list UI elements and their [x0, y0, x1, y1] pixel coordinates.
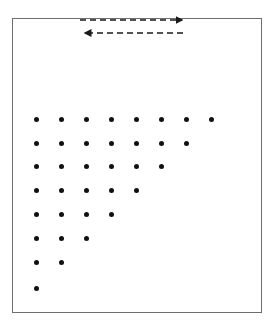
dot-marker — [84, 188, 89, 193]
dot-marker — [59, 260, 64, 265]
dot-marker — [134, 117, 139, 122]
dot-marker — [109, 164, 114, 169]
dot-marker — [84, 212, 89, 217]
dot-marker — [34, 141, 39, 146]
dot-marker — [84, 236, 89, 241]
dot-marker — [134, 164, 139, 169]
dot-marker — [159, 117, 164, 122]
dot-marker — [84, 141, 89, 146]
dot-marker — [59, 212, 64, 217]
dot-marker — [184, 141, 189, 146]
dot-marker — [109, 188, 114, 193]
dot-marker — [84, 117, 89, 122]
dot-marker — [34, 260, 39, 265]
dot-marker — [134, 188, 139, 193]
dot-marker — [34, 188, 39, 193]
dot-marker — [34, 117, 39, 122]
dot-marker — [59, 117, 64, 122]
dot-marker — [209, 117, 214, 122]
dot-marker — [134, 141, 139, 146]
dot-marker — [109, 141, 114, 146]
dot-marker — [34, 164, 39, 169]
dot-marker — [59, 164, 64, 169]
dot-marker — [59, 188, 64, 193]
dot-marker — [59, 236, 64, 241]
dot-marker — [84, 164, 89, 169]
diagram-canvas: Triangular dot array with bidirectional … — [0, 0, 274, 327]
dot-marker — [109, 117, 114, 122]
dot-marker — [34, 236, 39, 241]
dot-marker — [159, 141, 164, 146]
dot-marker — [184, 117, 189, 122]
dot-marker — [159, 164, 164, 169]
dot-marker — [34, 212, 39, 217]
dot-array — [0, 0, 274, 327]
dot-marker — [59, 141, 64, 146]
dot-marker — [34, 286, 39, 291]
dot-marker — [109, 212, 114, 217]
